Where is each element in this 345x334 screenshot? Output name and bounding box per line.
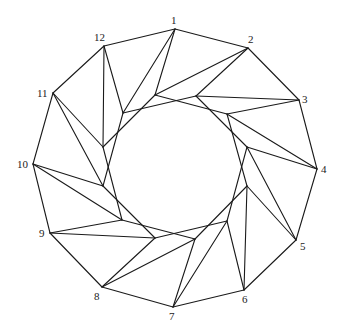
spoke-edge: [155, 29, 175, 95]
outer-edge: [104, 29, 175, 46]
spoke-edge: [102, 238, 155, 287]
spoke-edge: [196, 48, 248, 96]
inner-chord: [103, 186, 155, 238]
vertex-label: 9: [39, 227, 45, 239]
outer-edge: [175, 29, 248, 48]
inner-chord: [122, 220, 195, 239]
spoke-edge: [227, 221, 244, 290]
vertex-label: 1: [171, 14, 177, 26]
vertex-labels: 123456789101112: [17, 14, 327, 322]
vertex-label: 2: [248, 33, 254, 45]
inner-chord: [155, 221, 227, 238]
spoke-edge: [50, 233, 155, 238]
inner-chord: [103, 147, 122, 220]
inner-chord: [123, 96, 196, 113]
outer-edge: [296, 169, 317, 240]
outer-edge: [244, 240, 296, 290]
vertex-label: 7: [169, 310, 175, 322]
outer-edge: [173, 290, 244, 307]
spoke-edge: [102, 239, 195, 287]
vertex-label: 6: [242, 293, 248, 305]
outer-edge: [33, 164, 50, 233]
spoke-edge: [247, 147, 317, 169]
outer-edge: [102, 287, 173, 307]
outer-edge: [33, 93, 53, 164]
graph-edges: [33, 29, 317, 307]
vertex-label: 4: [321, 163, 327, 175]
outer-edge: [248, 48, 299, 100]
spoke-edge: [244, 186, 247, 290]
vertex-label: 11: [37, 87, 48, 99]
vertex-label: 12: [94, 31, 105, 43]
dodecagon-graph-diagram: 123456789101112: [0, 0, 345, 334]
vertex-label: 5: [300, 240, 306, 252]
vertex-label: 10: [17, 158, 29, 170]
spoke-edge: [155, 48, 248, 95]
spoke-edge: [227, 100, 299, 114]
inner-chord: [103, 113, 123, 186]
vertex-label: 8: [94, 290, 100, 302]
outer-edge: [50, 233, 102, 287]
outer-edge: [299, 100, 317, 169]
vertex-label: 3: [302, 93, 308, 105]
outer-edge: [53, 46, 104, 93]
spoke-edge: [50, 220, 122, 233]
spoke-edge: [104, 46, 123, 113]
inner-chord: [227, 147, 247, 221]
spoke-edge: [196, 96, 299, 100]
spoke-edge: [103, 46, 104, 147]
inner-chord: [155, 95, 227, 114]
